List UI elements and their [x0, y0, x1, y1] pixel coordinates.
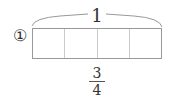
fraction-bar-diagram: 1 ① 3 4: [0, 0, 173, 99]
whole-label: 1: [91, 5, 102, 26]
brace-right: [106, 14, 162, 27]
fraction-denominator: 4: [93, 82, 102, 98]
problem-number: ①: [13, 26, 27, 45]
brace-left: [32, 14, 88, 26]
fraction-numerator: 3: [93, 65, 102, 81]
